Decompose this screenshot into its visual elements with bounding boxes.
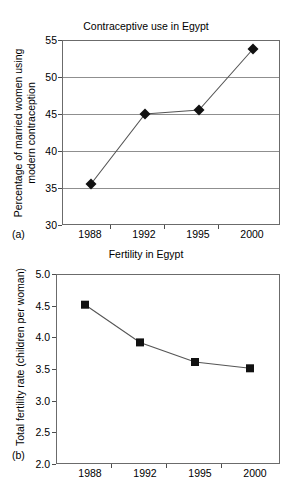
y-tick-label: 4.0	[35, 331, 50, 343]
y-tick-label: 55	[45, 34, 57, 46]
x-tick-label: 1992	[132, 228, 155, 240]
data-point-marker	[136, 338, 144, 346]
plot-area-fertility	[56, 274, 280, 464]
panel-label-b: (b)	[12, 449, 25, 461]
x-tick-label: 1995	[188, 467, 211, 479]
data-series-contraceptive	[63, 41, 279, 224]
x-tick-label: 2000	[243, 467, 266, 479]
x-tick-label: 1995	[186, 228, 209, 240]
data-point-marker	[246, 364, 254, 372]
x-axis-tick-labels-contraceptive: 1988 1992 1995 2000	[0, 228, 292, 242]
y-axis-tick-labels-fertility: 2.0 2.5 3.0 3.5 4.0 4.5 5.0	[16, 274, 50, 464]
y-tick-mark	[58, 225, 62, 226]
y-tick-label: 4.5	[35, 300, 50, 312]
chart-title-fertility: Fertility in Egypt	[0, 248, 292, 260]
data-point-marker	[86, 179, 97, 190]
y-tick-label: 3.5	[35, 363, 50, 375]
x-tick-label: 1988	[78, 467, 101, 479]
series-line	[91, 49, 253, 184]
chart-title-contraceptive: Contraceptive use in Egypt	[0, 20, 292, 32]
data-series-fertility	[57, 275, 279, 463]
chart-panel-fertility: Fertility in Egypt Total fertility rate …	[0, 248, 292, 470]
data-point-marker	[191, 358, 199, 366]
chart-panel-contraceptive-use: Contraceptive use in Egypt Percentage of…	[0, 0, 292, 248]
series-line	[85, 305, 250, 369]
y-tick-mark	[52, 464, 56, 465]
plot-area-contraceptive	[62, 40, 280, 225]
x-axis-tick-labels-fertility: 1988 1992 1995 2000	[0, 467, 292, 481]
x-tick-label: 2000	[240, 228, 263, 240]
y-tick-label: 50	[45, 71, 57, 83]
y-axis-tick-labels-contraceptive: 30 35 40 45 50 55	[24, 40, 57, 225]
data-point-marker	[140, 109, 151, 120]
x-tick-label: 1992	[133, 467, 156, 479]
y-tick-label: 40	[45, 145, 57, 157]
y-axis-title-line1: Percentage of married women using	[12, 38, 25, 228]
y-tick-label: 5.0	[35, 268, 50, 280]
y-tick-label: 2.5	[35, 426, 50, 438]
y-tick-label: 3.0	[35, 395, 50, 407]
x-tick-label: 1988	[78, 228, 101, 240]
y-tick-label: 45	[45, 108, 57, 120]
data-point-marker	[81, 301, 89, 309]
panel-label-a: (a)	[12, 228, 25, 240]
y-tick-label: 35	[45, 182, 57, 194]
